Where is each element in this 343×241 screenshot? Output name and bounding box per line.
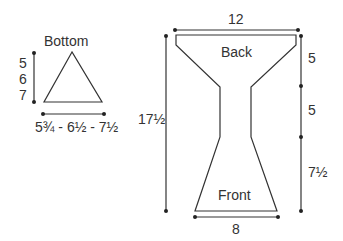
bottom-height-3: 7	[19, 87, 27, 103]
bottom-width: 5¾ - 6½ - 7½	[35, 119, 118, 135]
total-height: 17½	[138, 111, 165, 127]
bottom-title: Bottom	[44, 33, 88, 49]
back-front-piece	[176, 35, 296, 211]
back-label: Back	[221, 44, 252, 60]
segment-1: 5	[308, 50, 316, 66]
front-label: Front	[218, 187, 251, 203]
bottom-height-1: 5	[19, 55, 27, 71]
bottom-height-2: 6	[19, 71, 27, 87]
bottom-width-main: 8	[232, 221, 240, 237]
segment-2: 5	[308, 102, 316, 118]
segment-3: 7½	[308, 164, 327, 180]
bottom-triangle	[44, 52, 102, 102]
top-width: 12	[228, 11, 244, 27]
